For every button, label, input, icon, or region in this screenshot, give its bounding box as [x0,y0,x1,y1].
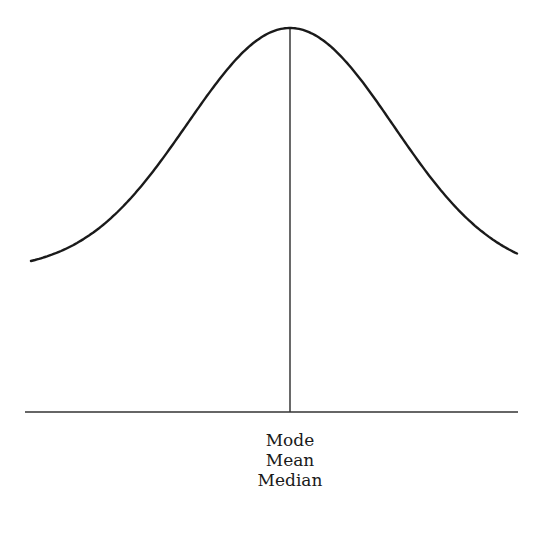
central-tendency-labels: Mode Mean Median [190,430,390,490]
bell-curve [31,28,517,261]
label-median: Median [190,470,390,490]
label-mean: Mean [190,450,390,470]
label-mode: Mode [190,430,390,450]
